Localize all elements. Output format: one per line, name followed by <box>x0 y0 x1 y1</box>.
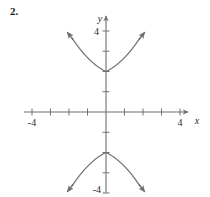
upper-left-arrow-icon <box>68 33 74 40</box>
lower-left-arrow-icon <box>68 185 74 192</box>
y-tick-label-positive-4: 4 <box>94 26 99 37</box>
axes-group <box>24 16 188 193</box>
lower-right-arrow-icon <box>139 185 145 192</box>
figure-page: 2. <box>0 0 210 197</box>
x-tick-label-positive-4: 4 <box>178 117 183 128</box>
y-axis-label: y <box>97 13 103 24</box>
x-axis-label: x <box>194 115 200 126</box>
upper-right-arrow-icon <box>139 33 145 40</box>
y-tick-label-negative-4: -4 <box>93 184 101 195</box>
x-tick-label-negative-4: -4 <box>28 117 36 128</box>
hyperbola-graph-figure: -4 4 4 -4 y x <box>0 0 210 197</box>
graph-svg: -4 4 4 -4 y x <box>0 0 210 197</box>
